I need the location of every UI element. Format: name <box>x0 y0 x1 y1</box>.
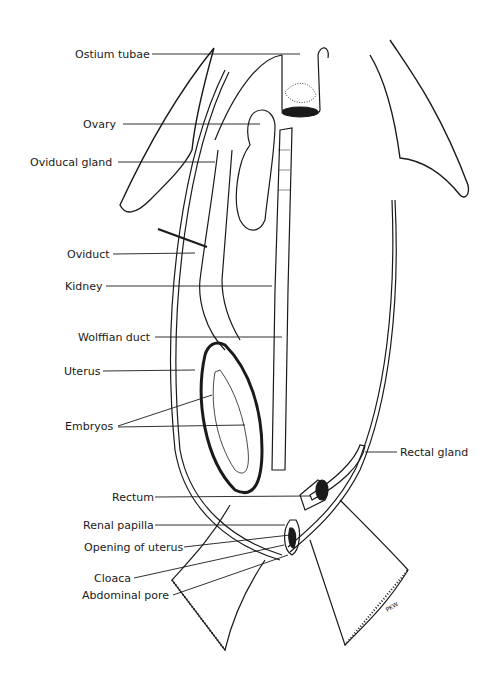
ovary <box>236 110 275 230</box>
label-renal-papilla: Renal papilla <box>83 519 154 532</box>
label-wolffian-duct: Wolffian duct <box>78 331 150 344</box>
label-cloaca: Cloaca <box>94 572 131 585</box>
label-ovary: Ovary <box>83 118 116 131</box>
oviduct <box>200 150 225 350</box>
label-embryos: Embryos <box>65 420 113 433</box>
label-oviducal-gland: Oviducal gland <box>30 156 112 169</box>
label-kidney: Kidney <box>65 280 103 293</box>
left-pectoral-fin <box>120 48 214 212</box>
label-ostium-tubae: Ostium tubae <box>75 48 150 61</box>
label-oviduct: Oviduct <box>67 248 110 261</box>
label-opening-of-uterus: Opening of uterus <box>84 541 183 554</box>
anatomy-illustration <box>0 0 496 687</box>
body-wall-left <box>171 70 280 560</box>
label-uterus: Uterus <box>64 365 100 378</box>
uterus <box>201 343 262 493</box>
label-rectum: Rectum <box>112 491 154 504</box>
body-wall-right <box>290 200 396 552</box>
label-rectal-gland: Rectal gland <box>400 446 468 459</box>
embryos <box>213 370 248 473</box>
body-wall-right-inner <box>288 200 393 547</box>
right-pectoral-fin <box>370 40 468 197</box>
right-pelvic-fin <box>310 500 408 645</box>
kidney <box>272 128 292 470</box>
label-abdominal-pore: Abdominal pore <box>82 589 169 602</box>
